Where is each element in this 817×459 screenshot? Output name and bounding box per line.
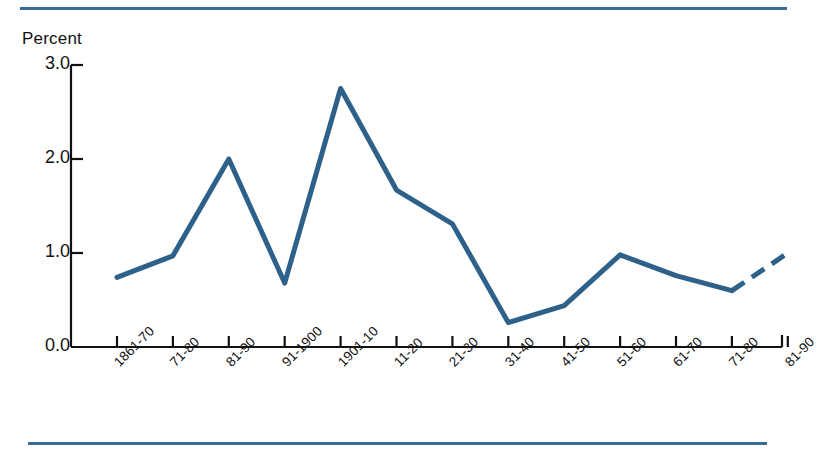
y-axis-tick-label: 0.0 bbox=[14, 335, 70, 356]
y-axis-tick-label: 3.0 bbox=[14, 53, 70, 74]
data-line-dashed-projection bbox=[732, 253, 788, 291]
y-axis-tick-label: 2.0 bbox=[14, 147, 70, 168]
data-line-solid bbox=[117, 89, 732, 323]
y-axis-tick-label: 1.0 bbox=[14, 241, 70, 262]
